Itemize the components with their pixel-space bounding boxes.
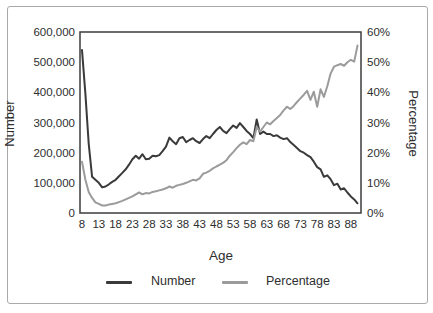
y-right-tick: 0% — [367, 207, 407, 220]
chart-figure: 600,000500,000400,000300,000200,000100,0… — [0, 0, 433, 313]
y-right-tick: 10% — [367, 177, 407, 190]
x-axis-label: Age — [196, 248, 246, 263]
y-left-tick: 300,000 — [25, 117, 75, 130]
y-left-tick: 0 — [25, 207, 75, 220]
y-right-tick: 30% — [367, 117, 407, 130]
y-right-tick: 60% — [367, 26, 407, 39]
y-left-tick: 600,000 — [25, 26, 75, 39]
number-line-series — [82, 50, 358, 203]
percentage-legend-swatch — [222, 281, 248, 284]
y-right-tick: 20% — [367, 147, 407, 160]
percentage-legend-label: Percentage — [266, 274, 330, 288]
y-axis-label-right: Percentage — [406, 79, 421, 169]
number-legend-swatch — [106, 281, 132, 284]
number-legend-label: Number — [151, 274, 195, 288]
y-axis-label-left: Number — [2, 79, 17, 169]
y-left-tick: 400,000 — [25, 86, 75, 99]
y-right-tick: 40% — [367, 86, 407, 99]
y-left-tick: 100,000 — [25, 177, 75, 190]
legend: Number Percentage — [0, 274, 433, 294]
percentage-line-series — [82, 46, 358, 206]
y-right-tick: 50% — [367, 56, 407, 69]
x-tick: 88 — [339, 218, 363, 231]
y-left-tick: 500,000 — [25, 56, 75, 69]
y-left-tick: 200,000 — [25, 147, 75, 160]
plot-area-border — [80, 32, 361, 213]
